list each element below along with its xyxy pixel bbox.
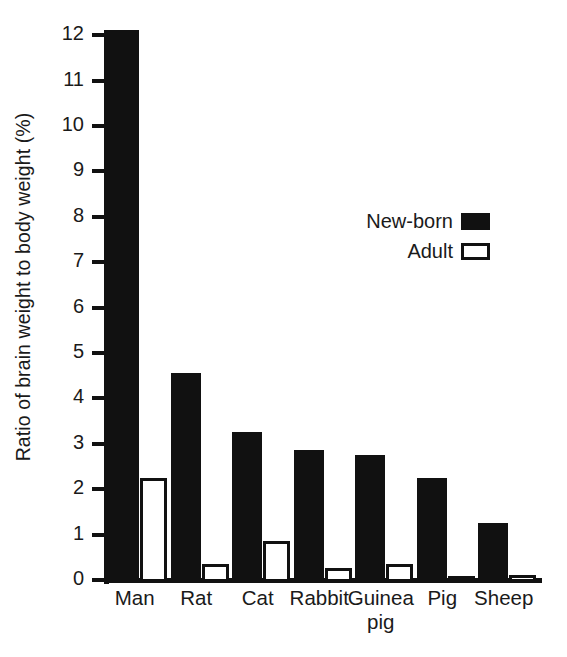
y-axis-tick-8	[92, 215, 105, 219]
y-axis-tick-label-9: 9	[54, 159, 84, 179]
y-axis-tick-12	[92, 33, 105, 37]
y-axis-tick-label-12: 12	[54, 23, 84, 43]
bar-group	[478, 30, 540, 582]
legend-swatch-filled	[461, 213, 490, 230]
y-axis-tick-1	[92, 533, 105, 537]
bar-group	[171, 30, 233, 582]
y-axis-tick-label-8: 8	[54, 205, 84, 225]
y-axis-tick-3	[92, 442, 105, 446]
y-axis-tick-label-10: 10	[54, 114, 84, 134]
bar-group	[109, 30, 171, 582]
bar-adult	[386, 564, 413, 582]
bar-chart-figure: Ratio of brain weight to body weight (%)…	[0, 0, 567, 657]
bar-adult	[263, 541, 290, 582]
bar-newborn	[355, 455, 385, 582]
y-axis-tick-7	[92, 260, 105, 264]
y-axis-tick-11	[92, 79, 105, 83]
x-axis-label-sheep: Sheep	[463, 586, 545, 610]
legend-entry: New-born	[330, 206, 490, 236]
legend-entry: Adult	[330, 236, 490, 266]
bar-adult	[448, 576, 475, 582]
bar-group	[294, 30, 356, 582]
y-axis-tick-label-5: 5	[54, 341, 84, 361]
legend: New-bornAdult	[330, 206, 490, 266]
bar-newborn	[417, 478, 447, 582]
bar-newborn	[109, 30, 139, 582]
bar-group	[417, 30, 479, 582]
legend-swatch-hollow	[461, 243, 490, 260]
legend-label: New-born	[366, 211, 453, 231]
y-axis-tick-0	[92, 578, 105, 582]
y-axis-tick-4	[92, 396, 105, 400]
bar-newborn	[294, 450, 324, 582]
y-axis-tick-label-7: 7	[54, 250, 84, 270]
bar-adult	[325, 568, 352, 582]
y-axis-tick-labels: 0123456789101112	[48, 0, 84, 657]
bar-adult	[509, 575, 536, 582]
y-axis-tick-5	[92, 351, 105, 355]
y-axis-tick-6	[92, 306, 105, 310]
x-axis-category-labels: ManRatCatRabbitGuinea pigPigSheep	[104, 586, 552, 652]
y-axis-tick-9	[92, 169, 105, 173]
y-axis-title: Ratio of brain weight to body weight (%)	[0, 0, 46, 582]
y-axis-tick-2	[92, 487, 105, 491]
bar-group	[232, 30, 294, 582]
bar-group	[355, 30, 417, 582]
bar-adult	[202, 564, 229, 582]
y-axis-tick-label-2: 2	[54, 477, 84, 497]
bar-newborn	[478, 523, 508, 582]
y-axis-tick-label-6: 6	[54, 296, 84, 316]
bar-adult	[140, 478, 167, 582]
bar-newborn	[171, 373, 201, 582]
y-axis-tick-label-4: 4	[54, 386, 84, 406]
y-axis-tick-10	[92, 124, 105, 128]
y-axis-tick-label-11: 11	[54, 69, 84, 89]
legend-label: Adult	[407, 241, 453, 261]
bar-newborn	[232, 432, 262, 582]
y-axis-tick-label-0: 0	[54, 568, 84, 588]
bars-layer	[109, 30, 542, 582]
y-axis-tick-label-1: 1	[54, 523, 84, 543]
y-axis-tick-label-3: 3	[54, 432, 84, 452]
